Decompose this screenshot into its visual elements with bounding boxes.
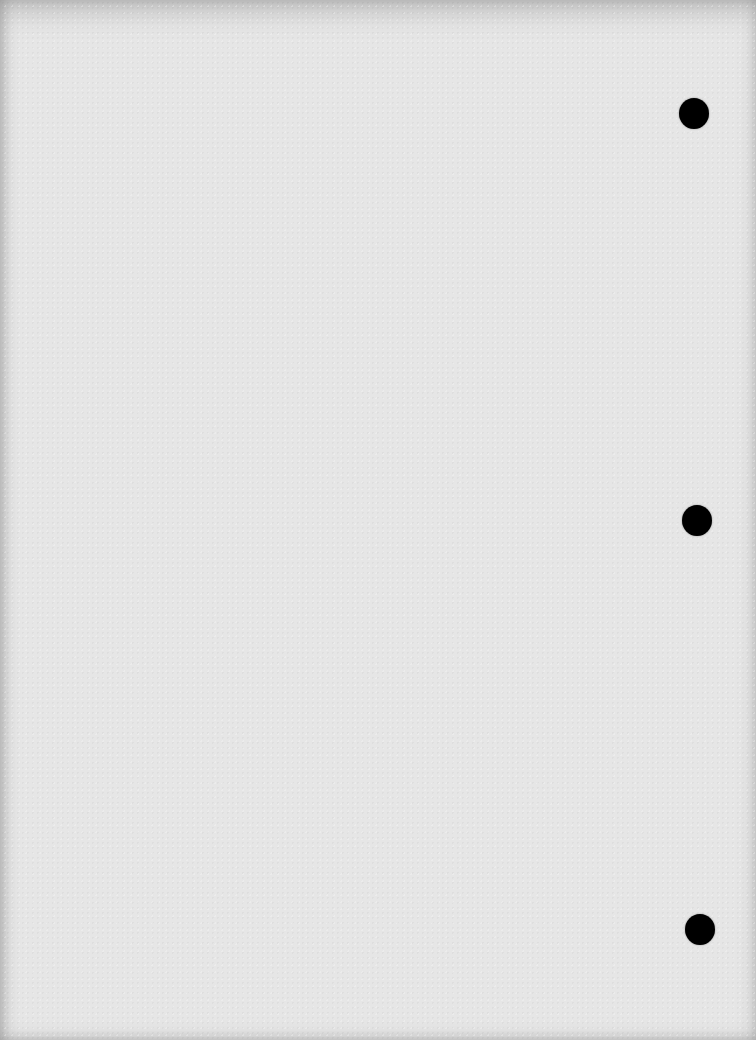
scanned-page (0, 0, 756, 1040)
punch-hole-bottom (685, 914, 715, 945)
punch-hole-top (679, 98, 709, 129)
paper-texture (0, 0, 756, 1040)
punch-hole-middle (682, 505, 712, 536)
